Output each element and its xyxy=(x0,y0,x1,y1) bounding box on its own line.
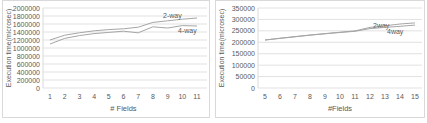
x-tick-label: 14 xyxy=(396,93,404,100)
y-tick-label: 200000 xyxy=(17,77,40,84)
x-tick-label: 10 xyxy=(336,93,344,100)
x-axis-label: #Fields xyxy=(328,104,352,113)
x-axis-label: # Fields xyxy=(110,104,137,113)
y-tick-label: 800000 xyxy=(17,53,40,60)
x-tick-label: 6 xyxy=(122,93,126,100)
chart-fields-1-11: 0200000400000600000800000100000012000001… xyxy=(2,0,210,118)
x-tick-label: 8 xyxy=(151,93,155,100)
y-tick-label: 1200000 xyxy=(13,37,40,44)
x-tick-label: 4 xyxy=(92,93,96,100)
y-tick-label: 200000 xyxy=(232,39,255,46)
y-tick-label: 100000 xyxy=(232,62,255,69)
x-tick-label: 6 xyxy=(278,93,282,100)
x-tick-label: 11 xyxy=(193,93,200,100)
x-tick-label: 11 xyxy=(351,93,358,100)
y-tick-label: 350000 xyxy=(232,5,255,12)
x-tick-label: 7 xyxy=(293,93,297,100)
y-tick-label: 600000 xyxy=(17,61,40,68)
x-tick-label: 3 xyxy=(77,93,81,100)
x-tick-label: 5 xyxy=(107,93,111,100)
x-tick-label: 2 xyxy=(63,93,67,100)
y-tick-label: 1000000 xyxy=(13,45,40,52)
series-label-4-way: 4-way xyxy=(178,27,197,35)
y-tick-label: 150000 xyxy=(232,50,255,57)
x-tick-label: 13 xyxy=(381,93,389,100)
x-tick-label: 10 xyxy=(178,93,186,100)
y-tick-label: 1800000 xyxy=(13,13,40,20)
y-tick-label: 300000 xyxy=(232,16,255,23)
y-tick-label: 0 xyxy=(36,85,40,92)
series-label-2-way: 2-way xyxy=(163,12,182,20)
y-tick-label: 1600000 xyxy=(13,21,40,28)
y-tick-label: 400000 xyxy=(17,69,40,76)
y-tick-label: 0 xyxy=(251,85,255,92)
line-chart-2: 0500001000001500002000002500003000003500… xyxy=(216,1,426,119)
x-tick-label: 7 xyxy=(136,93,140,100)
y-axis-label: Execution time(microsec) xyxy=(218,9,226,88)
y-axis-label: Execution time(microsec) xyxy=(5,9,13,88)
x-tick-label: 12 xyxy=(366,93,374,100)
line-chart-1: 0200000400000600000800000100000012000001… xyxy=(3,1,211,119)
x-tick-label: 9 xyxy=(323,93,327,100)
x-tick-label: 8 xyxy=(308,93,312,100)
y-tick-label: 2000000 xyxy=(13,5,40,12)
y-tick-label: 250000 xyxy=(232,27,255,34)
series-label-4way: 4way xyxy=(387,28,404,36)
y-tick-label: 1400000 xyxy=(13,29,40,36)
y-tick-label: 50000 xyxy=(236,73,256,80)
chart-fields-5-15: 0500001000001500002000002500003000003500… xyxy=(215,0,425,118)
x-tick-label: 1 xyxy=(48,93,52,100)
x-tick-label: 5 xyxy=(263,93,267,100)
x-tick-label: 15 xyxy=(411,93,419,100)
x-tick-label: 9 xyxy=(166,93,170,100)
